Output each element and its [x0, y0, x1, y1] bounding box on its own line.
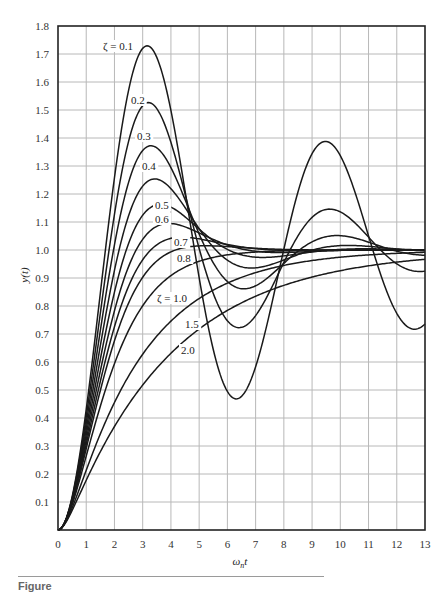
- figure-caption: Figure: [18, 580, 52, 592]
- curve-label: 0.4: [142, 160, 156, 172]
- y-tick-label: 1.5: [35, 104, 49, 116]
- y-tick-label: 1.7: [35, 48, 49, 60]
- y-tick-label: 0.8: [35, 300, 49, 312]
- curve-label: 0.7: [174, 236, 188, 248]
- x-tick-label: 10: [335, 538, 347, 550]
- x-tick-label: 0: [55, 538, 61, 550]
- curve-label: ζ = 0.1: [103, 40, 133, 53]
- curve-label: 0.2: [131, 94, 145, 106]
- y-tick-label: 0.1: [35, 496, 49, 508]
- x-tick-label: 12: [391, 538, 402, 550]
- y-axis-ticks: 0.10.20.30.40.50.60.70.80.91.01.11.21.31…: [35, 20, 49, 508]
- y-tick-label: 0.4: [35, 412, 49, 424]
- x-tick-label: 1: [83, 538, 89, 550]
- curve-label: 0.5: [155, 199, 169, 211]
- x-tick-label: 7: [253, 538, 259, 550]
- x-tick-label: 11: [363, 538, 374, 550]
- x-tick-label: 9: [309, 538, 315, 550]
- x-tick-label: 8: [281, 538, 287, 550]
- curve-label: 1.5: [185, 318, 199, 330]
- response-curve-zeta-0.7: [58, 237, 425, 530]
- curve-label: 0.6: [155, 213, 169, 225]
- curve-label: 0.3: [137, 130, 151, 142]
- y-tick-label: 0.3: [35, 440, 49, 452]
- x-tick-label: 2: [112, 538, 118, 550]
- y-tick-label: 0.5: [35, 384, 49, 396]
- y-tick-label: 1.2: [35, 188, 49, 200]
- curve-label: ζ = 1.0: [157, 292, 188, 305]
- x-axis-ticks: 012345678910111213: [55, 538, 431, 550]
- y-tick-label: 0.2: [35, 468, 49, 480]
- response-curve-zeta-0.1: [58, 46, 425, 530]
- y-tick-label: 1.6: [35, 76, 49, 88]
- y-tick-label: 1.0: [35, 244, 49, 256]
- x-tick-label: 5: [196, 538, 202, 550]
- response-curves: [58, 46, 425, 530]
- y-tick-label: 1.8: [35, 20, 49, 32]
- response-curve-zeta-0.6: [58, 223, 425, 530]
- y-tick-label: 1.3: [35, 160, 49, 172]
- x-tick-label: 3: [140, 538, 146, 550]
- x-tick-label: 13: [420, 538, 432, 550]
- y-tick-label: 0.7: [35, 328, 49, 340]
- response-curve-zeta-1.5: [58, 252, 425, 530]
- response-curve-zeta-0.4: [58, 179, 425, 530]
- curve-label: 2.0: [181, 344, 195, 356]
- caption-rule: [18, 576, 324, 577]
- x-axis-label: ωnt: [233, 555, 249, 570]
- y-tick-label: 1.4: [35, 132, 49, 144]
- response-curve-zeta-0.3: [58, 146, 425, 530]
- curve-label: 0.8: [177, 252, 191, 264]
- x-tick-label: 6: [225, 538, 231, 550]
- y-tick-label: 1.1: [35, 216, 49, 228]
- x-tick-label: 4: [168, 538, 174, 550]
- y-axis-label: y(t): [18, 267, 31, 284]
- y-tick-label: 0.6: [35, 356, 49, 368]
- y-tick-label: 0.9: [35, 272, 49, 284]
